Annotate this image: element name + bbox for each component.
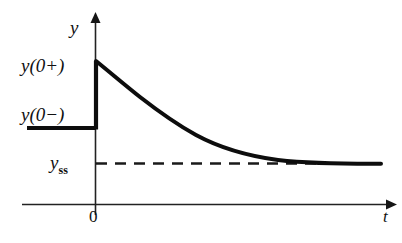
x-axis-label: t	[383, 208, 388, 225]
y-initial-before-label: y(0−)	[21, 105, 64, 124]
y-initial-after-label: y(0+)	[21, 56, 64, 75]
y-axis-label: y	[70, 18, 78, 37]
y-steady-state-label: yss	[50, 153, 68, 176]
y-steady-state-subscript: ss	[58, 163, 68, 177]
origin-label: 0	[89, 208, 98, 225]
